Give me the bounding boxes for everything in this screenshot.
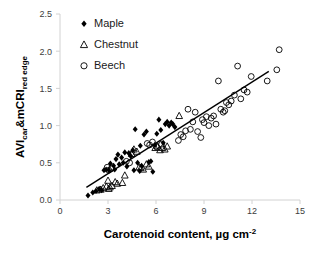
x-tick-label: 9 [201,206,206,216]
data-point-beech [276,47,282,53]
y-tick-label: 0.5 [39,158,52,168]
legend: MapleChestnutBeech [80,17,138,71]
x-axis-title-text: Carotenoid content, µg cm [104,228,249,240]
data-point-maple [158,127,163,133]
y-axis-title-sub-car: car [20,128,29,140]
data-point-maple [156,117,161,123]
x-axis-title-superscript: -2 [249,227,257,236]
x-tick-label: 12 [247,206,257,216]
data-point-beech [216,78,222,84]
data-point-beech [176,138,182,144]
y-tick-label: 2.0 [39,47,52,57]
legend-label-maple: Maple [94,17,124,29]
data-point-maple [122,149,127,155]
data-point-beech [206,123,212,129]
legend-item-chestnut[interactable]: Chestnut [80,38,138,50]
x-tick-label: 0 [57,206,62,216]
data-point-beech [248,74,254,80]
data-point-beech [264,78,270,84]
data-point-chestnut [105,177,112,183]
y-axis-title-mid: &mCRI [14,89,26,127]
data-point-maple [135,160,140,166]
y-axis-title-sub-rededge: red edge [20,55,29,89]
data-point-chestnut [121,172,128,178]
data-point-beech [274,67,280,73]
regression-line [86,71,268,187]
legend-label-beech: Beech [94,59,125,71]
series-maple [86,117,178,199]
data-point-beech [213,121,219,127]
chart-container: 0.00.51.01.52.02.5 03691215 MapleChestnu… [0,0,316,253]
x-axis-tick-labels: 03691215 [57,206,305,216]
trend-line [86,71,268,187]
scatter-plot: 0.00.51.01.52.02.5 03691215 MapleChestnu… [0,0,316,253]
data-point-chestnut [119,179,126,185]
data-point-maple [86,192,91,198]
y-axis-tick-labels: 0.00.51.01.52.02.5 [39,9,52,205]
y-tick-label: 1.0 [39,121,52,131]
data-point-maple [154,131,159,137]
y-tick-label: 0.0 [39,195,52,205]
legend-marker-beech [81,63,87,69]
data-point-beech [195,129,201,135]
x-axis-title: Carotenoid content, µg cm-2 [104,227,257,240]
x-tick-label: 3 [105,206,110,216]
data-point-beech [192,109,198,115]
x-tick-label: 15 [295,206,305,216]
legend-marker-maple [81,21,86,28]
x-tick-label: 6 [153,206,158,216]
data-point-beech [185,106,191,112]
legend-label-chestnut: Chestnut [94,38,138,50]
data-point-maple [133,126,138,132]
y-axis-title-main: AVI [14,140,26,158]
data-point-maple [150,169,155,175]
data-point-beech [238,96,244,102]
axes [56,14,300,204]
y-tick-label: 2.5 [39,9,52,19]
data-point-maple [138,143,143,149]
y-tick-label: 1.5 [39,84,52,94]
legend-marker-chestnut [80,41,87,48]
legend-item-maple[interactable]: Maple [81,17,124,29]
data-point-maple [119,155,124,161]
data-point-chestnut [176,112,183,118]
y-axis-title: AVIcar&mCRIred edge [14,55,29,158]
legend-item-beech[interactable]: Beech [81,59,125,71]
data-point-beech [235,63,241,69]
data-point-beech [198,135,204,141]
